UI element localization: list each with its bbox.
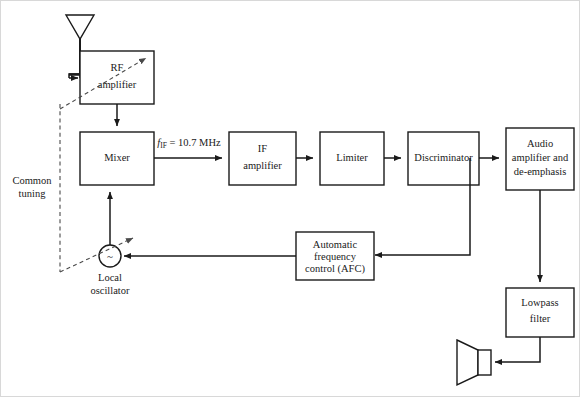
wire-antenna-run [69, 39, 80, 78]
wire-antenna-feed [69, 39, 80, 74]
afc-label-line3: control (AFC) [305, 263, 365, 275]
block-rf-amplifier: RF amplifier [80, 51, 154, 104]
if-frequency-subscript: IF [160, 141, 167, 150]
common-tuning-label-line1: Common [12, 175, 52, 186]
lowpass-filter-label-line1: Lowpass [521, 297, 558, 308]
discriminator-label: Discriminator [414, 152, 473, 163]
mixer-label: Mixer [104, 152, 130, 163]
wire-lowpass-to-speaker [495, 337, 540, 362]
oscillator-icon: ~ [99, 245, 121, 267]
local-oscillator-label-line2: oscillator [90, 285, 130, 296]
limiter-label: Limiter [336, 152, 368, 163]
block-discriminator: Discriminator [408, 132, 479, 185]
if-frequency-label: fIF = 10.7 MHz [157, 137, 221, 150]
afc-label-line1: Automatic [313, 239, 358, 250]
fm-receiver-block-diagram: RF amplifier Mixer fIF = 10.7 MHz IF amp… [0, 0, 580, 397]
wire-antenna-to-rf [69, 39, 80, 75]
block-audio-amplifier: Audio amplifier and de-emphasis [506, 128, 574, 190]
local-oscillator-label-line1: Local [98, 272, 122, 283]
oscillator-symbol: ~ [107, 250, 113, 262]
block-afc: Automatic frequency control (AFC) [296, 232, 374, 280]
audio-amplifier-label-line1: Audio [527, 138, 553, 149]
if-amplifier-label-line1: IF [258, 143, 267, 154]
block-mixer: Mixer [80, 132, 154, 185]
if-amplifier-label-line2: amplifier [243, 160, 282, 171]
speaker-icon [457, 340, 491, 385]
block-lowpass-filter: Lowpass filter [506, 288, 574, 337]
rf-amplifier-label-line2: amplifier [98, 79, 137, 90]
block-if-amplifier: IF amplifier [229, 132, 296, 185]
lowpass-filter-label-line2: filter [530, 313, 551, 324]
common-tuning-label-line2: tuning [19, 188, 47, 199]
afc-label-line2: frequency [314, 251, 357, 262]
audio-amplifier-label-line2: amplifier and [512, 152, 569, 163]
block-limiter: Limiter [320, 132, 384, 185]
dashed-tuning-arrow-oscillator [60, 238, 133, 272]
audio-amplifier-label-line3: de-emphasis [514, 166, 567, 177]
if-frequency-value: = 10.7 MHz [167, 137, 221, 148]
rf-amplifier-label-line1: RF [111, 62, 124, 73]
